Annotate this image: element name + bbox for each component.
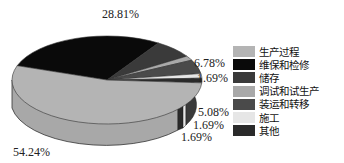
- legend-label: 施工: [259, 112, 279, 124]
- legend-item: 维保和检修: [233, 58, 319, 71]
- legend-label: 维保和检修: [259, 59, 309, 71]
- legend-item: 生产过程: [233, 45, 319, 58]
- label-qita: 1.69%: [181, 130, 212, 145]
- label-shengchan: 54.24%: [13, 145, 50, 160]
- legend-swatch: [233, 72, 255, 83]
- legend-swatch: [233, 59, 255, 70]
- legend-item: 装运和转移: [233, 98, 319, 111]
- legend-label: 生产过程: [259, 46, 299, 58]
- legend-label: 储存: [259, 72, 279, 84]
- label-tiaoshi: 1.69%: [197, 71, 228, 86]
- legend-swatch: [233, 125, 255, 136]
- legend-label: 调试和试生产: [259, 85, 319, 97]
- legend-item: 施工: [233, 111, 319, 124]
- legend-item: 调试和试生产: [233, 85, 319, 98]
- pie-slices: [12, 36, 202, 124]
- legend-swatch: [233, 86, 255, 97]
- label-chucun: 6.78%: [194, 56, 225, 71]
- legend-item: 储存: [233, 71, 319, 84]
- legend-swatch: [233, 46, 255, 57]
- legend-swatch: [233, 112, 255, 123]
- legend-label: 其他: [259, 125, 279, 137]
- legend: 生产过程维保和检修储存调试和试生产装运和转移施工其他: [233, 45, 319, 137]
- legend-label: 装运和转移: [259, 98, 309, 110]
- label-weibao: 28.81%: [102, 7, 139, 22]
- legend-item: 其他: [233, 124, 319, 137]
- legend-swatch: [233, 99, 255, 110]
